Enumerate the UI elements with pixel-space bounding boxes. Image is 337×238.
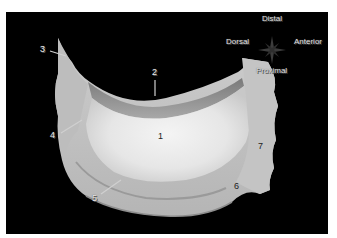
specimen-illustration (6, 12, 328, 234)
direction-anterior: Anterior (294, 38, 322, 46)
label-1: 1 (158, 132, 163, 141)
direction-dorsal: Dorsal (226, 38, 249, 46)
label-3: 3 (40, 45, 45, 54)
label-6: 6 (234, 182, 239, 191)
direction-distal: Distal (262, 15, 282, 23)
label-2: 2 (152, 68, 157, 77)
label-4: 4 (50, 131, 55, 140)
label-5: 5 (92, 194, 97, 203)
label-7: 7 (258, 142, 263, 151)
direction-proximal: Proximal (256, 67, 287, 75)
specimen-photo: Distal Dorsal Anterior Proximal 1 2 3 4 … (6, 12, 328, 234)
compass-icon (258, 36, 286, 64)
